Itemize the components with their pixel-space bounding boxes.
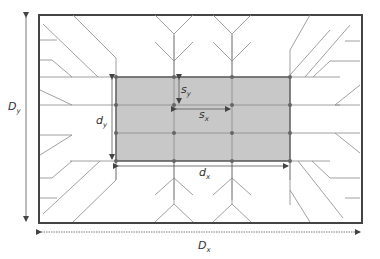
- label-Dy: Dy: [8, 100, 21, 115]
- label-Dx: Dx: [198, 239, 211, 254]
- diagram-canvas: Dy Dx dy dx sy sx: [0, 0, 380, 259]
